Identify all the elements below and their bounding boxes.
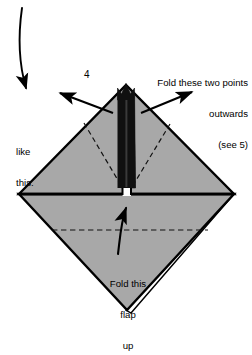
midline-gap (123, 188, 132, 196)
annotation-like-this: like this. (16, 126, 34, 209)
center-gap-line (125, 100, 127, 187)
annotation-fold-flap: Fold this flap up (99, 258, 157, 355)
annotation-fold-flap-line1: Fold this (99, 279, 157, 289)
annotation-fold-points-line3: (see 5) (157, 140, 248, 150)
annotation-fold-flap-line2: flap (99, 310, 157, 320)
annotation-like-this-line1: like (16, 147, 34, 157)
step-number-label: 4 (84, 70, 90, 81)
annotation-fold-points: Fold these two points outwards (see 5) (157, 57, 248, 171)
annotation-fold-flap-line3: up (99, 341, 157, 351)
annotation-fold-points-line1: Fold these two points (157, 78, 248, 88)
annotation-like-this-line2: this. (16, 178, 34, 188)
annotation-fold-points-line2: outwards (157, 109, 248, 119)
